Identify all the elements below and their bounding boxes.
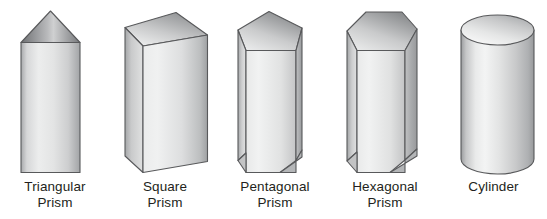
shape-label-line-2: Prism (220, 195, 330, 211)
shape-label-line-1: Triangular (0, 179, 110, 195)
cylinder-illustration (440, 0, 547, 180)
shape-label-line-1: Cylinder (440, 179, 547, 195)
square-prism-left-face (125, 28, 143, 173)
triangular-prism-top-face (21, 11, 80, 43)
shape-label-cylinder: Cylinder (440, 179, 547, 195)
shape-label-line-2: Prism (110, 195, 220, 211)
shape-label-pentagonal-prism: Pentagonal Prism (220, 179, 330, 211)
shape-label-line-2: Prism (330, 195, 440, 211)
shape-label-square-prism: Square Prism (110, 179, 220, 211)
pentagonal-prism-top-face (238, 12, 302, 51)
shape-cell-triangular-prism: Triangular Prism (0, 0, 110, 219)
hexagonal-prism-right-face (405, 29, 417, 160)
shape-label-line-1: Hexagonal (330, 179, 440, 195)
shape-label-line-2: Prism (0, 195, 110, 211)
shape-cell-hexagonal-prism: Hexagonal Prism (330, 0, 440, 219)
pentagonal-prism-left-face (238, 30, 246, 161)
shape-label-line-1: Square (110, 179, 220, 195)
shape-label-hexagonal-prism: Hexagonal Prism (330, 179, 440, 211)
cylinder-body (461, 30, 534, 174)
shape-cell-pentagonal-prism: Pentagonal Prism (220, 0, 330, 219)
triangular-prism-front-face (21, 43, 80, 173)
triangular-prism-illustration (0, 0, 110, 180)
shape-cell-cylinder: Cylinder (440, 0, 547, 219)
hexagonal-prism-top-face (347, 12, 417, 51)
square-prism-illustration (110, 0, 220, 180)
shape-cell-square-prism: Square Prism (110, 0, 220, 219)
shape-label-triangular-prism: Triangular Prism (0, 179, 110, 211)
pentagonal-prism-illustration (220, 0, 330, 180)
shape-label-line-1: Pentagonal (220, 179, 330, 195)
hexagonal-prism-illustration (330, 0, 440, 180)
square-prism-front-face (143, 35, 208, 173)
hexagonal-prism-front-face (357, 51, 405, 173)
pentagonal-prism-front-face (246, 51, 296, 173)
pentagonal-prism-right-face (296, 28, 302, 161)
solid-figures-diagram: Triangular Prism (0, 0, 547, 219)
hexagonal-prism-left-face (347, 31, 357, 161)
cylinder-top-face (461, 15, 534, 45)
